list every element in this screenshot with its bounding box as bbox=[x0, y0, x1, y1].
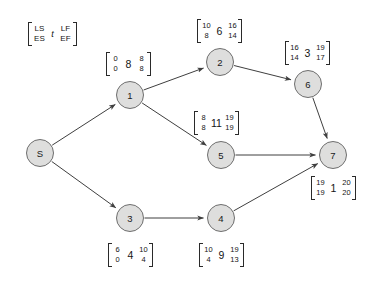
node-5-label: 5 bbox=[218, 150, 223, 161]
edge-S-to-3 bbox=[52, 161, 116, 207]
legend-es: ES bbox=[34, 35, 45, 43]
node-2[interactable]: 2 bbox=[206, 48, 234, 76]
node-4-lf: 19 bbox=[230, 246, 238, 254]
node-6[interactable]: 6 bbox=[294, 70, 322, 98]
node-4-duration: 9 bbox=[219, 250, 225, 261]
node-2-ef: 14 bbox=[228, 32, 236, 40]
legend-ef: EF bbox=[60, 35, 70, 43]
node-6-es: 14 bbox=[290, 54, 298, 62]
node-1-lf: 8 bbox=[139, 55, 143, 63]
node-6-ls: 16 bbox=[290, 44, 298, 52]
edge-2-to-6 bbox=[234, 66, 291, 80]
node-3-lf: 10 bbox=[139, 246, 147, 254]
node-6-label: 6 bbox=[305, 79, 310, 90]
node-2-duration: 6 bbox=[217, 26, 223, 37]
node-1-es: 0 bbox=[113, 65, 117, 73]
node-2-schedule-box: 10166814 bbox=[197, 19, 242, 43]
node-4-label: 4 bbox=[218, 213, 223, 224]
node-3-ls: 6 bbox=[115, 246, 119, 254]
node-3-es: 0 bbox=[115, 256, 119, 264]
edge-6-to-7 bbox=[313, 98, 327, 139]
node-7-es: 19 bbox=[316, 189, 324, 197]
node-1-ef: 8 bbox=[139, 65, 143, 73]
legend-ls: LS bbox=[35, 25, 45, 33]
node-7[interactable]: 7 bbox=[319, 141, 347, 169]
node-6-ef: 17 bbox=[316, 54, 324, 62]
node-6-duration: 3 bbox=[305, 48, 311, 59]
node-2-label: 2 bbox=[217, 57, 222, 68]
node-3-label: 3 bbox=[127, 213, 132, 224]
node-4-ef: 13 bbox=[230, 256, 238, 264]
node-7-lf: 20 bbox=[342, 179, 350, 187]
node-5-ls: 8 bbox=[201, 114, 205, 122]
legend-lf: LF bbox=[61, 25, 71, 33]
node-7-schedule-box: 192011920 bbox=[311, 176, 356, 200]
node-1-duration: 8 bbox=[126, 59, 132, 70]
node-4[interactable]: 4 bbox=[207, 204, 235, 232]
node-6-lf: 19 bbox=[316, 44, 324, 52]
node-7-ls: 19 bbox=[316, 179, 324, 187]
node-5[interactable]: 5 bbox=[207, 141, 235, 169]
edge-4-to-7 bbox=[234, 164, 318, 211]
node-2-lf: 16 bbox=[228, 22, 236, 30]
node-6-schedule-box: 161931417 bbox=[285, 41, 330, 65]
node-7-duration: 1 bbox=[331, 183, 337, 194]
node-7-ef: 20 bbox=[342, 189, 350, 197]
node-S-label: S bbox=[37, 148, 43, 159]
node-4-schedule-box: 10199413 bbox=[199, 243, 244, 267]
node-1-schedule-box: 08808 bbox=[106, 52, 151, 76]
node-5-es: 8 bbox=[201, 124, 205, 132]
legend-duration: t bbox=[51, 30, 54, 39]
node-1[interactable]: 1 bbox=[116, 81, 144, 109]
node-5-schedule-box: 81911819 bbox=[194, 111, 239, 135]
node-4-ls: 10 bbox=[204, 246, 212, 254]
node-1-ls: 0 bbox=[113, 55, 117, 63]
node-3[interactable]: 3 bbox=[116, 204, 144, 232]
node-5-duration: 11 bbox=[211, 118, 222, 129]
node-7-label: 7 bbox=[330, 150, 335, 161]
node-3-duration: 4 bbox=[128, 250, 134, 261]
node-4-es: 4 bbox=[206, 256, 210, 264]
node-3-schedule-box: 610404 bbox=[108, 243, 153, 267]
edge-1-to-2 bbox=[144, 68, 204, 90]
edge-S-to-1 bbox=[52, 104, 115, 145]
node-3-ef: 4 bbox=[141, 256, 145, 264]
node-2-es: 8 bbox=[204, 32, 208, 40]
node-2-ls: 10 bbox=[202, 22, 210, 30]
node-5-lf: 19 bbox=[225, 114, 233, 122]
node-5-ef: 19 bbox=[225, 124, 233, 132]
network-diagram-canvas: LS LF t ES EF S1234567 08808101668146104… bbox=[0, 0, 375, 287]
node-S[interactable]: S bbox=[26, 139, 54, 167]
legend-bracket: LS LF t ES EF bbox=[28, 22, 77, 46]
node-1-label: 1 bbox=[127, 90, 132, 101]
